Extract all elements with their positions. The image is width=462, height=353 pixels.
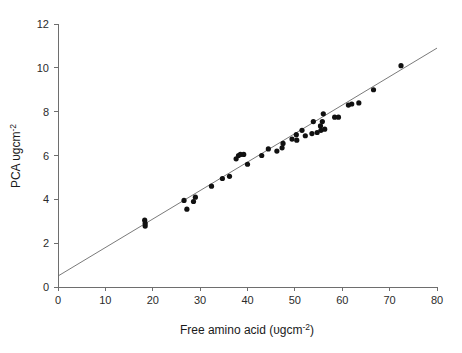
data-point [227, 174, 232, 179]
data-point [143, 221, 148, 226]
data-point [309, 131, 314, 136]
scatter-chart-figure: 01020304050607080 024681012 Free amino a… [0, 0, 462, 353]
data-point [398, 63, 403, 68]
y-tick-label: 8 [43, 106, 49, 118]
x-axis-title-text: Free amino acid (υgcm [180, 323, 303, 337]
data-point [349, 101, 354, 106]
data-point [289, 136, 294, 141]
x-tick-label: 40 [241, 294, 253, 306]
x-tick-label: 60 [336, 294, 348, 306]
data-point [299, 128, 304, 133]
x-axis-ticks: 01020304050607080 [55, 287, 443, 306]
y-tick-label: 12 [37, 18, 49, 30]
data-point [322, 127, 327, 132]
data-point [245, 162, 250, 167]
x-tick-label: 10 [99, 294, 111, 306]
x-tick-label: 70 [384, 294, 396, 306]
data-point [294, 132, 299, 137]
svg-text:PCA υgcm-2: PCA υgcm-2 [8, 124, 23, 188]
y-tick-label: 6 [43, 150, 49, 162]
data-point [279, 145, 284, 150]
data-point [266, 146, 271, 151]
data-point [184, 207, 189, 212]
data-point [209, 184, 214, 189]
data-point [220, 176, 225, 181]
y-tick-label: 0 [43, 281, 49, 293]
y-tick-label: 2 [43, 237, 49, 249]
x-axis-title-tail: ) [310, 323, 314, 337]
data-point [280, 141, 285, 146]
data-point [259, 153, 264, 158]
data-point [241, 152, 246, 157]
data-point [321, 111, 326, 116]
x-tick-label: 20 [147, 294, 159, 306]
data-point [356, 100, 361, 105]
data-points-group [142, 63, 404, 229]
chart-canvas: 01020304050607080 024681012 Free amino a… [0, 0, 462, 353]
data-point [294, 138, 299, 143]
x-tick-label: 80 [431, 294, 443, 306]
data-point [336, 115, 341, 120]
y-axis-ticks: 024681012 [37, 18, 58, 293]
x-axis-title: Free amino acid (υgcm-2) [180, 322, 314, 337]
y-tick-label: 4 [43, 193, 49, 205]
data-point [181, 198, 186, 203]
data-point [193, 195, 198, 200]
y-axis-title: PCA υgcm-2 [8, 124, 23, 188]
data-point [371, 87, 376, 92]
data-point [303, 133, 308, 138]
x-tick-label: 0 [55, 294, 61, 306]
y-tick-label: 10 [37, 62, 49, 74]
x-tick-label: 30 [194, 294, 206, 306]
data-point [311, 119, 316, 124]
y-axis-title-superscript: -2 [8, 124, 18, 132]
data-point [320, 119, 325, 124]
data-point [274, 149, 279, 154]
x-tick-label: 50 [289, 294, 301, 306]
y-axis-title-text: PCA υgcm [9, 131, 23, 188]
plot-frame [58, 24, 437, 287]
svg-text:Free amino acid (υgcm-2): Free amino acid (υgcm-2) [180, 322, 314, 337]
